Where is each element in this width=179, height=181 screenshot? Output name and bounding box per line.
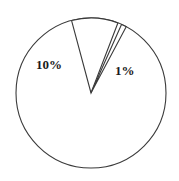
pie-slice-label-10-percent: 10% xyxy=(36,58,62,71)
pie-chart: 10% 1% xyxy=(0,0,179,181)
pie-slice-label-1-percent: 1% xyxy=(115,64,135,77)
pie-chart-graphic xyxy=(0,0,179,181)
